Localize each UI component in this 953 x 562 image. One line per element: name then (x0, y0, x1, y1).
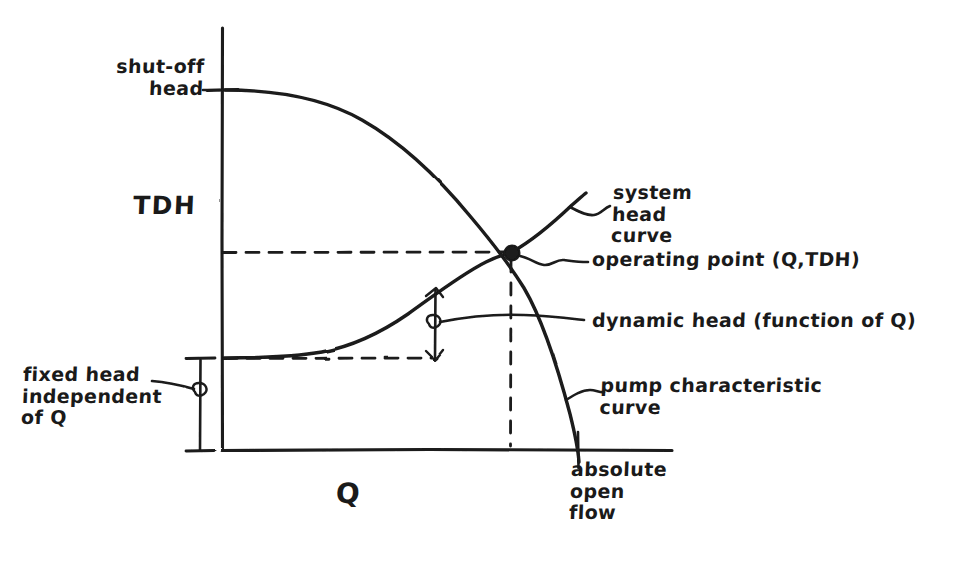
pump-characteristic-curve (225, 90, 579, 462)
system-head-curve-leader (570, 206, 610, 215)
operating-point-leader (520, 256, 588, 265)
pump-characteristic-curve-label: pump characteristic curve (599, 375, 823, 418)
fixed-head-label: fixed head independent of Q (21, 364, 164, 429)
fixed-head-measure-bar (200, 360, 201, 450)
dynamic-head-label: dynamic head (function of Q) (592, 310, 917, 332)
pump-characteristic-leader (566, 390, 604, 400)
y-axis-label: TDH (132, 192, 196, 221)
system-head-curve (224, 193, 586, 358)
fixed-head-measure-cap-top (186, 358, 215, 359)
fixed-head-dashed-line (224, 358, 437, 359)
shut-off-head-label: shut-off head (111, 56, 205, 99)
absolute-open-flow-label: absolute open flow (569, 459, 668, 524)
dynamic-head-leader-loop (427, 315, 441, 328)
operating-point-dot (505, 246, 520, 261)
operating-point-label: operating point (Q,TDH) (592, 249, 861, 271)
x-axis-label: Q (335, 478, 361, 510)
fixed-head-measure-cap-bottom (186, 451, 214, 452)
tdh-dashed-line (223, 252, 505, 253)
x-axis (222, 450, 672, 451)
diagram-canvas: shut-off head TDH Q system head curve op… (0, 0, 953, 562)
dynamic-head-measure-bar (435, 290, 436, 358)
system-head-curve-label: system head curve (611, 182, 693, 247)
q-dashed-line (511, 260, 512, 446)
